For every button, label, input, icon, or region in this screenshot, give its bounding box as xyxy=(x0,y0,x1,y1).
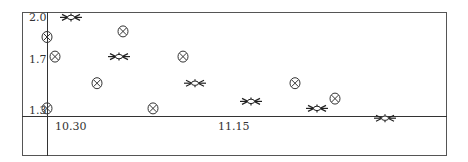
star-marker xyxy=(184,79,206,87)
star-marker xyxy=(374,114,396,122)
x-tick-label: 11.15 xyxy=(218,120,250,133)
y-tick-label: 2.0 xyxy=(29,11,47,24)
marker-layer xyxy=(42,13,396,122)
circle-x-marker xyxy=(92,78,102,89)
circle-x-marker xyxy=(50,51,60,62)
star-marker xyxy=(240,97,262,105)
circle-x-marker xyxy=(148,103,158,114)
x-tick-label: 10.30 xyxy=(55,120,87,133)
star-marker xyxy=(306,104,328,112)
circle-x-marker xyxy=(290,78,300,89)
star-marker xyxy=(108,53,130,61)
chart-frame xyxy=(23,13,447,156)
y-tick-label: 1.7 xyxy=(29,53,47,66)
circle-x-marker xyxy=(118,26,128,37)
star-marker xyxy=(60,13,82,21)
circle-x-marker xyxy=(178,51,188,62)
circle-x-marker xyxy=(330,93,340,104)
scatter-chart: 2.0 1.7 1.3 10.30 11.15 xyxy=(0,0,468,162)
